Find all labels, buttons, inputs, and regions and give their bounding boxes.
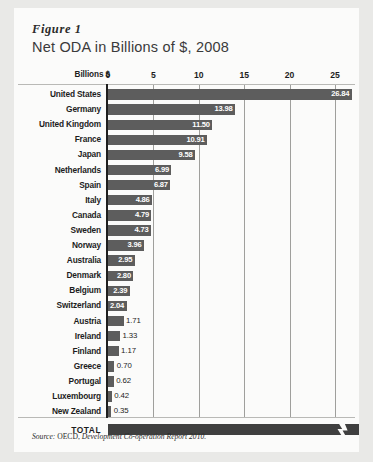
bar-value-label: 1.71: [126, 316, 141, 326]
bar-category-label: Belgium: [14, 283, 101, 298]
bar-value-label: 2.39: [108, 286, 127, 296]
chart-bar-row: Ireland1.33: [14, 329, 359, 344]
source-prefix: Source:: [32, 432, 55, 441]
bar-value-label: 0.70: [117, 361, 132, 371]
chart-bar: [108, 406, 111, 416]
bar-category-label: Japan: [14, 147, 101, 162]
bar-value-label: 0.35: [114, 406, 129, 416]
figure-number-label: Figure 1: [32, 22, 82, 37]
chart-bar-row: United States26.84: [14, 87, 359, 102]
axis-break-icon: [335, 423, 351, 437]
chart-bar-row: France10.91: [14, 132, 359, 147]
chart-bar: [108, 376, 114, 386]
source-organization: OECD,: [55, 432, 81, 441]
bar-category-label: Finland: [14, 344, 101, 359]
chart-bar-row: Norway3.96: [14, 238, 359, 253]
bar-value-label: 10.91: [108, 135, 205, 145]
chart-bar-row: United Kingdom11.50: [14, 117, 359, 132]
chart-bar-row: Portugal0.62: [14, 374, 359, 389]
bar-value-label: 2.80: [108, 271, 131, 281]
bar-value-label: 11.50: [108, 120, 210, 130]
bar-category-label: Germany: [14, 102, 101, 117]
plot-top-rule: [18, 84, 355, 85]
x-axis-tick-label: 20: [285, 70, 295, 80]
chart-bar-row: Belgium2.39: [14, 283, 359, 298]
bar-category-label: United Kingdom: [14, 117, 101, 132]
bar-category-label: Ireland: [14, 329, 101, 344]
source-title: Development Co-operation Report 2010.: [82, 432, 206, 441]
bar-value-label: 2.95: [108, 255, 132, 265]
chart-bar: [108, 391, 112, 401]
bar-category-label: Netherlands: [14, 163, 101, 178]
bar-value-label: 4.86: [108, 195, 150, 205]
chart-plot-area: United States26.84Germany13.98United Kin…: [14, 84, 359, 418]
bar-category-label: Canada: [14, 208, 101, 223]
chart-bar-row: Germany13.98: [14, 102, 359, 117]
bar-category-label: United States: [14, 87, 101, 102]
chart-bar-row: Australia2.95: [14, 253, 359, 268]
chart-bar: [108, 346, 119, 356]
bar-category-label: Greece: [14, 359, 101, 374]
chart-bar-row: Denmark2.80: [14, 268, 359, 283]
bar-value-label: 6.99: [108, 165, 169, 175]
bar-category-label: Australia: [14, 253, 101, 268]
chart-bar: [108, 331, 120, 341]
bar-category-label: France: [14, 132, 101, 147]
bar-value-label: 4.73: [108, 225, 148, 235]
bar-category-label: Switzerland: [14, 298, 101, 313]
chart-bar-row: Italy4.86: [14, 193, 359, 208]
x-axis-tick-label: 15: [239, 70, 249, 80]
chart-bar-row: Japan9.58: [14, 147, 359, 162]
chart-bar-row: Switzerland2.04: [14, 298, 359, 313]
chart-bar-row: Sweden4.73: [14, 223, 359, 238]
x-axis-tick-label: 5: [151, 70, 156, 80]
bar-value-label: 13.98: [108, 104, 232, 114]
x-axis-tick-label: 0: [106, 70, 111, 80]
y-axis-line: [106, 84, 108, 418]
figure-page: Figure 1 Net ODA in Billions of $, 2008 …: [0, 0, 373, 462]
bar-value-label: 9.58: [108, 150, 192, 160]
bar-value-label: 6.87: [108, 180, 168, 190]
bar-category-label: New Zealand: [14, 404, 101, 419]
bar-category-label: Norway: [14, 238, 101, 253]
x-axis-tick-label: 10: [194, 70, 204, 80]
chart-bar: [108, 316, 124, 326]
chart-bar-row: Luxembourg0.42: [14, 389, 359, 404]
bar-category-label: Denmark: [14, 268, 101, 283]
bar-value-label: 1.17: [121, 346, 136, 356]
chart-bar: [108, 361, 114, 371]
x-axis-tick-label: 25: [330, 70, 340, 80]
bar-category-label: Portugal: [14, 374, 101, 389]
bar-category-label: Spain: [14, 178, 101, 193]
chart-bar-row: Canada4.79: [14, 208, 359, 223]
bar-category-label: Italy: [14, 193, 101, 208]
chart-bar-row: Austria1.71: [14, 314, 359, 329]
bar-value-label: 1.33: [123, 331, 138, 341]
chart-bar-row: Spain6.87: [14, 178, 359, 193]
bar-value-label: 26.84: [108, 89, 349, 99]
bar-category-label: Austria: [14, 314, 101, 329]
chart-bar-row: New Zealand0.35: [14, 404, 359, 419]
chart-bar-row: Netherlands6.99: [14, 163, 359, 178]
bar-value-label: 2.04: [108, 301, 124, 311]
x-axis-header: Billions $ 0510152025: [14, 70, 359, 84]
bar-value-label: 0.62: [116, 376, 131, 386]
chart-title: Net ODA in Billions of $, 2008: [32, 39, 229, 55]
bar-value-label: 3.96: [108, 240, 141, 250]
bar-value-label: 0.42: [114, 391, 129, 401]
figure-card: Figure 1 Net ODA in Billions of $, 2008 …: [14, 8, 359, 452]
bar-value-label: 4.79: [108, 210, 149, 220]
source-note: Source: OECD, Development Co-operation R…: [32, 432, 206, 441]
chart-bar-row: Finland1.17: [14, 344, 359, 359]
chart-bar-row: Greece0.70: [14, 359, 359, 374]
bar-category-label: Sweden: [14, 223, 101, 238]
bar-category-label: Luxembourg: [14, 389, 101, 404]
